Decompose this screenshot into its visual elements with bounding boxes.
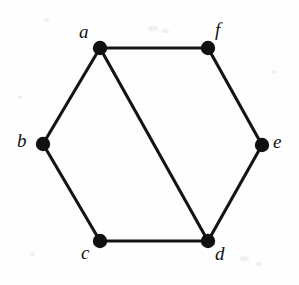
vertex-label-b: b xyxy=(17,131,27,150)
vertex-label-d: d xyxy=(215,244,225,263)
edge-a-b xyxy=(43,48,100,144)
vertex-label-c: c xyxy=(81,243,89,262)
vertex-f xyxy=(201,41,215,55)
vertex-b xyxy=(36,137,50,151)
vertex-a xyxy=(93,41,107,55)
graph-canvas xyxy=(0,0,299,285)
vertex-d xyxy=(201,234,215,248)
edge-a-d xyxy=(100,48,208,241)
edges-group xyxy=(43,48,262,241)
vertex-label-a: a xyxy=(79,22,89,41)
edge-d-e xyxy=(208,145,262,241)
vertex-label-f: f xyxy=(215,20,220,39)
edge-b-c xyxy=(43,144,100,241)
graph-figure: abcdef xyxy=(0,0,299,285)
vertex-label-e: e xyxy=(273,132,281,151)
vertex-e xyxy=(255,138,269,152)
edge-e-f xyxy=(208,48,262,145)
vertex-c xyxy=(93,234,107,248)
